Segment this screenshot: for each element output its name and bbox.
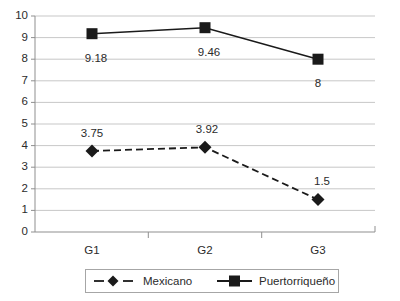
y-axis-tick-labels: 10 9 8 7 6 5 4 3 2 1 0: [15, 9, 28, 237]
legend-entry-puertorriqueno[interactable]: Puertorriqueño: [217, 275, 335, 287]
y-tick-label: 6: [22, 95, 28, 107]
data-label-pr-g1: 9.18: [85, 52, 107, 64]
y-tick-label: 3: [22, 160, 28, 172]
x-axis-tick-labels: G1 G2 G3: [84, 244, 325, 256]
y-tick-label: 2: [22, 182, 28, 194]
data-label-mx-g3: 1.5: [314, 175, 330, 187]
y-tick-label: 8: [22, 52, 28, 64]
y-tick-label: 4: [22, 139, 29, 151]
legend-label-puertorriqueno: Puertorriqueño: [259, 275, 335, 287]
marker-square-g1: [87, 28, 98, 39]
x-tick-label-g2: G2: [197, 244, 212, 256]
chart-legend: Mexicano Puertorriqueño: [86, 270, 339, 293]
y-tick-label: 5: [22, 117, 28, 129]
data-label-mx-g1: 3.75: [81, 127, 103, 139]
y-tick-label: 10: [15, 9, 28, 21]
x-tick-label-g3: G3: [310, 244, 325, 256]
y-tick-label: 1: [22, 203, 28, 215]
data-label-mx-g2: 3.92: [196, 123, 218, 135]
line-chart: 10 9 8 7 6 5 4 3 2 1 0 G1 G2 G3: [0, 0, 400, 301]
x-tickmarks: [148, 232, 261, 238]
data-label-pr-g3: 8: [315, 77, 321, 89]
marker-square-g3: [313, 54, 324, 65]
marker-square-g2: [200, 22, 211, 33]
y-tick-label: 9: [22, 31, 28, 43]
x-tick-label-g1: G1: [84, 244, 99, 256]
y-tick-label: 0: [22, 225, 28, 237]
chart-canvas: 10 9 8 7 6 5 4 3 2 1 0 G1 G2 G3: [0, 0, 400, 301]
legend-marker-square: [229, 276, 240, 287]
y-tick-label: 7: [22, 74, 28, 86]
legend-label-mexicano: Mexicano: [143, 275, 192, 287]
data-label-pr-g2: 9.46: [198, 46, 220, 58]
y-tickmarks: [31, 16, 35, 232]
